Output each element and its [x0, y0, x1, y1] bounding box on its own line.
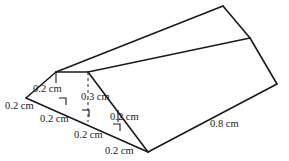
geometry-figure: 0.2 cm 0.3 cm 0.2 cm 0.2 cm 0.2 cm 0.2 c…	[0, 0, 289, 161]
figure-canvas	[0, 0, 289, 161]
dim-label-base-segment-1: 0.2 cm	[40, 114, 69, 125]
dim-label-depth-right: 0.8 cm	[210, 119, 239, 130]
dim-label-base-segment-2: 0.2 cm	[110, 112, 139, 123]
dim-label-base-segment-4: 0.2 cm	[105, 146, 134, 157]
dim-label-slant-left-upper: 0.2 cm	[33, 84, 62, 95]
dim-label-base-segment-3: 0.2 cm	[74, 130, 103, 141]
dim-label-height-center: 0.3 cm	[81, 92, 110, 103]
dim-label-slant-left-lower: 0.2 cm	[5, 101, 34, 112]
